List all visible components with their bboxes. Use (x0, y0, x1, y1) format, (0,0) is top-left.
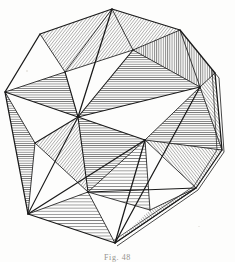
figure-caption: Fig. 48 (0, 248, 235, 262)
icosahedron-figure (0, 0, 235, 248)
figure-plate: Fig. 48 (0, 0, 235, 262)
face-hatched (5, 92, 35, 214)
figure-caption-text: Fig. 48 (104, 253, 131, 262)
